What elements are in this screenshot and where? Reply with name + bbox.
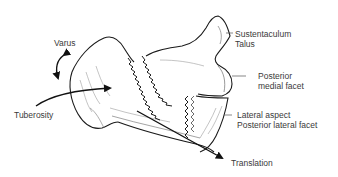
- fracture-line-secondary: [142, 56, 172, 106]
- label-posterior-medial-facet: Posterior medial facet: [258, 71, 304, 91]
- sustentaculum-fragment: [146, 16, 232, 96]
- label-translation: Translation: [231, 158, 273, 168]
- label-lateral-aspect: Lateral aspect Posterior lateral facet: [237, 110, 317, 130]
- label-sustentaculum-line1: Sustentaculum: [235, 29, 291, 39]
- label-varus: Varus: [54, 38, 76, 48]
- label-sustentaculum: Sustentaculum Talus: [235, 29, 291, 49]
- varus-rotation-arrow: [57, 55, 64, 78]
- label-posterior-medial-line2: medial facet: [258, 81, 304, 91]
- label-sustentaculum-line2: Talus: [235, 39, 291, 49]
- label-posterior-medial-line1: Posterior: [258, 71, 304, 81]
- label-tuberosity: Tuberosity: [14, 110, 53, 120]
- label-lateral-line2: Posterior lateral facet: [237, 120, 317, 130]
- fracture-line-vertical: [185, 96, 188, 138]
- label-lateral-line1: Lateral aspect: [237, 110, 317, 120]
- translation-arrow: [137, 111, 222, 158]
- lateral-fragment: [196, 96, 228, 152]
- calcaneus-fracture-diagram: Varus Tuberosity Sustentaculum Talus Pos…: [0, 0, 338, 177]
